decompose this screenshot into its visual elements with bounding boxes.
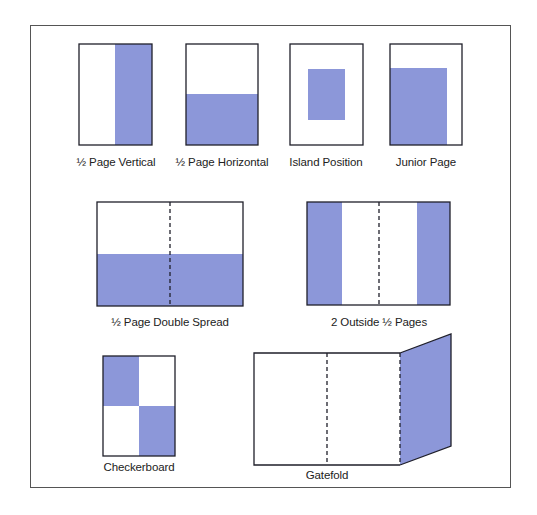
half-page-horizontal-fill bbox=[186, 94, 258, 145]
label-half-page-double-spread: ½ Page Double Spread bbox=[111, 316, 229, 328]
checker-bottom-right-fill bbox=[139, 406, 175, 456]
label-two-outside-half-pages: 2 Outside ½ Pages bbox=[331, 316, 427, 328]
junior-page-fill bbox=[390, 68, 447, 145]
ad-layouts-diagram bbox=[0, 0, 537, 515]
outside-right-fill bbox=[417, 202, 450, 305]
label-half-page-horizontal: ½ Page Horizontal bbox=[176, 156, 269, 168]
outside-left-fill bbox=[307, 202, 342, 305]
half-page-vertical-fill bbox=[115, 44, 152, 145]
label-checkerboard: Checkerboard bbox=[103, 461, 174, 473]
label-gatefold: Gatefold bbox=[306, 469, 349, 481]
label-island-position: Island Position bbox=[289, 156, 362, 168]
checker-top-left-fill bbox=[103, 356, 139, 406]
label-junior-page: Junior Page bbox=[396, 156, 456, 168]
island-position-fill bbox=[308, 69, 345, 120]
label-half-page-vertical: ½ Page Vertical bbox=[76, 156, 155, 168]
gatefold-panel-fill bbox=[400, 334, 451, 465]
